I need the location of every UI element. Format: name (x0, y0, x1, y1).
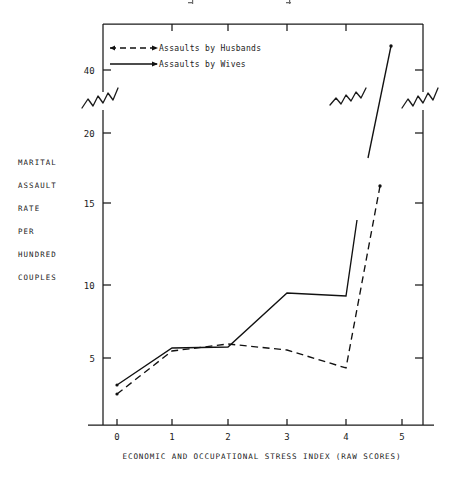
x-tick-label-4: 4 (343, 432, 349, 442)
y-caption-line-1: MARITAL (18, 158, 57, 167)
chart-figure: 40 20 15 10 5 MARITAL ASSAULT RATE PER H… (0, 0, 456, 478)
y-tick-label-5: 5 (89, 354, 95, 364)
series-wives-start-marker (115, 383, 118, 386)
legend-label-husbands: Assaults by Husbands (159, 44, 261, 53)
y-tick-label-40: 40 (84, 66, 95, 76)
series-husbands-peak-marker (378, 184, 381, 187)
x-tick-label-3: 3 (284, 432, 290, 442)
line-chart-svg: 40 20 15 10 5 MARITAL ASSAULT RATE PER H… (0, 0, 456, 478)
y-tick-label-10: 10 (84, 281, 95, 291)
y-caption-line-4: PER (18, 227, 35, 236)
x-tick-label-1: 1 (169, 432, 175, 442)
series-husbands-start-marker (115, 392, 118, 395)
x-axis-caption: ECONOMIC AND OCCUPATIONAL STRESS INDEX (… (122, 452, 401, 461)
y-tick-label-20: 20 (84, 129, 95, 139)
y-caption-line-2: ASSAULT (18, 181, 57, 190)
y-caption-line-5: HUNDRED (18, 250, 57, 259)
legend-label-wives: Assaults by Wives (159, 60, 246, 69)
series-wives-peak-marker (389, 44, 392, 47)
chart-background (0, 0, 456, 478)
x-tick-label-5: 5 (399, 432, 405, 442)
x-tick-label-2: 2 (225, 432, 231, 442)
x-tick-label-0: 0 (114, 432, 120, 442)
y-caption-line-3: RATE (18, 204, 40, 213)
y-caption-line-6: COUPLES (18, 273, 57, 282)
y-tick-label-15: 15 (84, 199, 95, 209)
